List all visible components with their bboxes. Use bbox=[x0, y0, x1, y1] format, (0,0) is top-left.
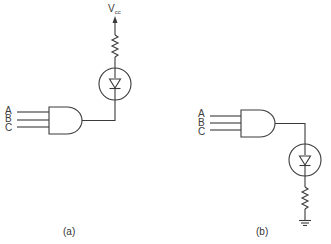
resistor-icon bbox=[302, 187, 308, 209]
caption-b: (b) bbox=[256, 226, 268, 237]
panel-b: A B C (b) bbox=[198, 108, 321, 237]
ground-icon bbox=[299, 221, 311, 226]
input-label-c: C bbox=[198, 126, 205, 137]
vcc-arrow-icon bbox=[113, 16, 118, 35]
and-gate-icon bbox=[49, 107, 82, 134]
output-wire bbox=[275, 124, 305, 145]
input-label-c: C bbox=[5, 122, 12, 133]
and-gate-icon bbox=[241, 110, 275, 137]
vcc-label: Vcc bbox=[108, 3, 121, 15]
output-wire bbox=[82, 100, 115, 121]
led-icon bbox=[99, 68, 131, 100]
circuit-diagram: Vcc A B C (a) bbox=[0, 0, 331, 244]
led-icon bbox=[289, 144, 321, 176]
resistor-icon bbox=[112, 35, 118, 57]
panel-a: Vcc A B C (a) bbox=[5, 3, 131, 237]
caption-a: (a) bbox=[63, 226, 75, 237]
